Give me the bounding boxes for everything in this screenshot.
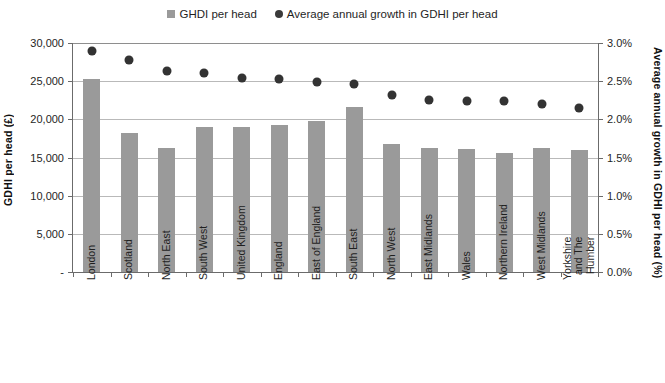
data-point-marker bbox=[575, 103, 584, 112]
y-axis-left-tick bbox=[68, 158, 73, 159]
y-axis-right-tick bbox=[598, 43, 603, 44]
y-axis-right-tick-label: 3.0% bbox=[607, 37, 632, 49]
x-axis-category-label: East of England bbox=[311, 206, 322, 280]
data-point-marker bbox=[387, 90, 396, 99]
x-axis-category-label: South East bbox=[349, 229, 360, 280]
gridline bbox=[73, 234, 598, 235]
x-axis-tick bbox=[448, 272, 449, 277]
gridline bbox=[73, 158, 598, 159]
x-axis-category-label: London bbox=[86, 245, 97, 280]
gridline bbox=[73, 119, 598, 120]
y-axis-right-tick bbox=[598, 119, 603, 120]
y-axis-left-tick bbox=[68, 119, 73, 120]
data-point-marker bbox=[87, 46, 96, 55]
y-axis-right-tick bbox=[598, 196, 603, 197]
y-axis-left-tick bbox=[68, 43, 73, 44]
y-axis-left-tick-label: 30,000 bbox=[30, 37, 64, 49]
x-axis-tick bbox=[186, 272, 187, 277]
data-point-marker bbox=[125, 55, 134, 64]
x-axis-tick bbox=[111, 272, 112, 277]
x-axis-tick bbox=[298, 272, 299, 277]
y-axis-left-tick-label: 5,000 bbox=[36, 228, 64, 240]
x-axis-tick bbox=[223, 272, 224, 277]
y-axis-right-tick-label: 0.0% bbox=[607, 266, 632, 278]
x-axis-tick bbox=[486, 272, 487, 277]
chart-container: GHDI per head Average annual growth in G… bbox=[0, 0, 665, 383]
data-point-marker bbox=[537, 100, 546, 109]
legend-item-average-annual-growth: Average annual growth in GDHI per head bbox=[275, 8, 498, 20]
x-axis-category-label: South West bbox=[199, 226, 210, 280]
x-axis-tick bbox=[523, 272, 524, 277]
y-axis-right-title: Average annual growth in GDHI per head (… bbox=[648, 45, 664, 280]
y-axis-left-tick-label: 20,000 bbox=[30, 113, 64, 125]
y-axis-left-tick-label: 25,000 bbox=[30, 75, 64, 87]
x-axis-category-label: Yorkshire and The Humber bbox=[563, 237, 596, 280]
x-axis-tick bbox=[411, 272, 412, 277]
y-axis-left-tick-label: 15,000 bbox=[30, 152, 64, 164]
x-axis-category-label: North West bbox=[386, 228, 397, 280]
gridline bbox=[73, 43, 598, 44]
y-axis-left-tick-label: 10,000 bbox=[30, 190, 64, 202]
x-axis-category-label: United Kingdom bbox=[236, 205, 247, 280]
plot-area: 30,0003.0%25,0002.5%20,0002.0%15,0001.5%… bbox=[72, 43, 599, 272]
chart-legend: GHDI per head Average annual growth in G… bbox=[0, 8, 665, 20]
y-axis-right-tick-label: 2.0% bbox=[607, 113, 632, 125]
x-axis-tick bbox=[73, 272, 74, 277]
legend-label-average-annual-growth: Average annual growth in GDHI per head bbox=[287, 8, 498, 20]
data-point-marker bbox=[462, 97, 471, 106]
x-axis-category-label: West Midlands bbox=[536, 211, 547, 280]
y-axis-right-tick bbox=[598, 234, 603, 235]
data-point-marker bbox=[200, 68, 209, 77]
y-axis-right-tick-label: 1.5% bbox=[607, 152, 632, 164]
y-axis-left-tick bbox=[68, 196, 73, 197]
y-axis-left-title: GDHI per head (£) bbox=[2, 60, 18, 260]
y-axis-right-tick bbox=[598, 158, 603, 159]
x-axis-category-label: North East bbox=[161, 230, 172, 280]
gridline bbox=[73, 196, 598, 197]
data-point-marker bbox=[162, 67, 171, 76]
x-axis-category-label: Scotland bbox=[124, 239, 135, 280]
gridline bbox=[73, 81, 598, 82]
data-point-marker bbox=[237, 74, 246, 83]
y-axis-right-tick-label: 0.5% bbox=[607, 228, 632, 240]
x-axis-category-label: Northern Ireland bbox=[499, 204, 510, 280]
x-axis-tick bbox=[336, 272, 337, 277]
bar bbox=[83, 79, 100, 272]
y-axis-left-tick bbox=[68, 81, 73, 82]
x-axis-tick bbox=[598, 272, 599, 277]
x-axis-tick bbox=[261, 272, 262, 277]
legend-item-ghdi-per-head: GHDI per head bbox=[167, 8, 256, 20]
circle-marker-icon bbox=[275, 10, 283, 18]
x-axis-category-label: Wales bbox=[461, 251, 472, 280]
data-point-marker bbox=[425, 96, 434, 105]
x-axis-tick bbox=[148, 272, 149, 277]
y-axis-left-tick bbox=[68, 234, 73, 235]
x-axis-category-label: England bbox=[274, 241, 285, 280]
square-marker-icon bbox=[167, 10, 175, 18]
y-axis-right-tick-label: 2.5% bbox=[607, 75, 632, 87]
x-axis-tick bbox=[373, 272, 374, 277]
y-axis-right-tick bbox=[598, 81, 603, 82]
data-point-marker bbox=[275, 74, 284, 83]
data-point-marker bbox=[500, 97, 509, 106]
data-point-marker bbox=[350, 80, 359, 89]
y-axis-left-tick-label: - bbox=[60, 266, 64, 278]
x-axis-category-label: East Midlands bbox=[424, 214, 435, 280]
data-point-marker bbox=[312, 77, 321, 86]
legend-label-ghdi-per-head: GHDI per head bbox=[179, 8, 256, 20]
y-axis-right-tick-label: 1.0% bbox=[607, 190, 632, 202]
